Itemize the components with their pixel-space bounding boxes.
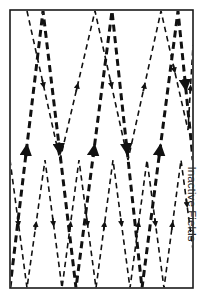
scan-direction-arrow: [104, 224, 105, 230]
scan-direction-arrow: [87, 218, 88, 224]
scan-direction-arrow: [143, 86, 144, 92]
scan-direction-arrow: [172, 224, 173, 230]
scan-direction-arrow: [59, 143, 60, 150]
scan-direction-arrow: [93, 150, 94, 157]
scan-direction-arrow: [42, 80, 43, 86]
scan-direction-arrow: [53, 218, 54, 224]
scan-pattern-diagram: [0, 0, 220, 306]
scan-direction-arrow: [110, 80, 111, 86]
scan-direction-arrow: [70, 224, 71, 230]
scan-direction-arrow: [18, 218, 19, 224]
axis-label-inactive-fields: Inactive Fields: [184, 154, 200, 254]
scan-direction-arrow: [138, 224, 139, 230]
scan-direction-arrow: [35, 224, 36, 230]
scan-direction-arrow: [126, 143, 127, 150]
scan-direction-arrow: [185, 79, 186, 86]
scan-direction-arrow: [155, 218, 156, 224]
scan-direction-arrow: [26, 150, 27, 157]
inactive-fields-figure: Inactive Fields: [0, 0, 220, 306]
scan-direction-arrow: [121, 218, 122, 224]
scan-direction-arrow: [159, 150, 160, 157]
